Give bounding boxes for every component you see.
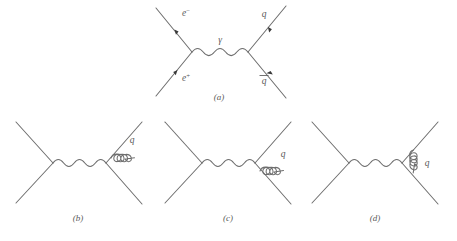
- diagram-canvas: e− e+ γ q q (a) q (b) q (c): [0, 0, 457, 241]
- fermion-line-d-positron: [312, 163, 349, 203]
- feynman-figure: e− e+ γ q q (a) q (b) q (c): [0, 0, 457, 241]
- caption-panel-c: (c): [223, 213, 233, 223]
- label-electron: e−: [182, 7, 190, 19]
- gluon-line-d: [410, 150, 418, 173]
- label-quark: q: [262, 9, 267, 19]
- photon-propagator-wavy-line: [192, 48, 248, 55]
- fermion-line-c-quark: [255, 122, 291, 163]
- fermion-line-b-electron: [16, 122, 53, 163]
- fermion-line-quark-out: [248, 6, 286, 52]
- panel-b: q (b): [16, 122, 142, 223]
- label-gluon-b: q: [130, 135, 135, 145]
- caption-panel-b: (b): [73, 213, 84, 223]
- fermion-line-antiquark-out: [248, 52, 286, 98]
- fermion-line-b-antiquark: [106, 163, 142, 204]
- label-photon: γ: [218, 35, 222, 45]
- fermion-line-b-positron: [16, 163, 53, 203]
- panel-d: q (d): [312, 122, 438, 223]
- fermion-line-c-positron: [165, 163, 202, 203]
- fermion-line-d-electron: [312, 122, 349, 163]
- panel-c: q (c): [165, 122, 291, 223]
- fermion-line-d-antiquark: [402, 163, 438, 204]
- label-antiquark: q: [262, 76, 267, 86]
- label-positron: e+: [182, 72, 190, 84]
- arrow-head-antiquark-out: [266, 71, 272, 75]
- photon-propagator-d: [349, 160, 402, 167]
- label-gluon-c: q: [281, 149, 286, 159]
- fermion-line-d-quark: [402, 122, 438, 163]
- fermion-line-c-electron: [165, 122, 202, 163]
- arrow-head-electron-in: [174, 29, 178, 34]
- label-gluon-d: q: [425, 158, 430, 168]
- panel-a: e− e+ γ q q (a): [156, 6, 286, 102]
- caption-panel-a: (a): [214, 92, 225, 102]
- caption-panel-d: (d): [370, 213, 381, 223]
- fermion-line-electron-in: [156, 8, 192, 52]
- gluon-line-c: [260, 167, 284, 175]
- gluon-line-b: [111, 154, 135, 162]
- photon-propagator-b: [53, 160, 106, 167]
- arrow-head-quark-out: [268, 27, 272, 33]
- photon-propagator-c: [202, 160, 255, 167]
